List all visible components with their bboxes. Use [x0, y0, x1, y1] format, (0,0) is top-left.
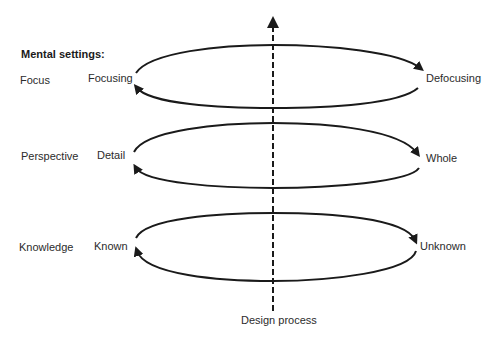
- loop-focus-lower-arc: [137, 88, 418, 108]
- loop-perspective: [134, 123, 419, 188]
- loop-perspective-lower-arc: [136, 168, 419, 188]
- loop-knowledge: [136, 213, 416, 281]
- loop-knowledge-lower-arc: [137, 251, 416, 281]
- right-pole-defocusing: Defocusing: [426, 72, 481, 85]
- loop-focus-upper-arc: [136, 45, 420, 73]
- axis-label-design-process: Design process: [241, 314, 317, 327]
- left-pole-known: Known: [94, 240, 128, 253]
- category-label-perspective: Perspective: [21, 150, 78, 163]
- loop-perspective-upper-arc: [134, 123, 417, 153]
- loop-knowledge-upper-arc: [136, 213, 415, 240]
- loop-focus: [136, 45, 420, 108]
- heading-mental-settings: Mental settings:: [21, 48, 105, 61]
- left-pole-focusing: Focusing: [88, 72, 133, 85]
- left-pole-detail: Detail: [97, 149, 125, 162]
- diagram-canvas: Mental settings: Focus Focusing Defocusi…: [0, 0, 499, 342]
- right-pole-unknown: Unknown: [420, 240, 466, 253]
- category-label-knowledge: Knowledge: [19, 241, 73, 254]
- right-pole-whole: Whole: [426, 152, 457, 165]
- category-label-focus: Focus: [20, 74, 50, 87]
